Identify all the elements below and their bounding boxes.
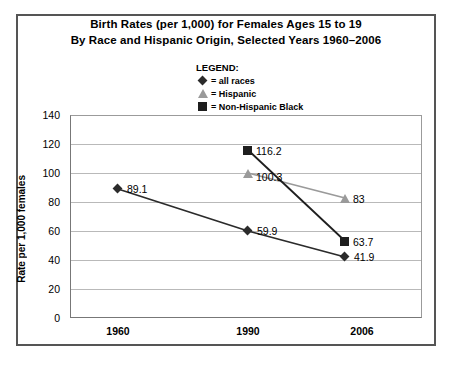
- label-hispanic-1990: 100.3: [256, 172, 282, 183]
- label-all-races-2006: 41.9: [354, 252, 374, 263]
- title-line-1: Birth Rates (per 1,000) for Females Ages…: [16, 16, 436, 32]
- title-line-2: By Race and Hispanic Origin, Selected Ye…: [16, 32, 436, 48]
- label-non-hispanic-black-1990: 116.2: [256, 146, 282, 157]
- point-hispanic-1990: [243, 169, 253, 178]
- y-tick-140: 140: [16, 110, 60, 120]
- chart-legend: LEGEND: = all races = Hispanic = Non-His…: [196, 62, 366, 113]
- point-non-hispanic-black-2006: [340, 237, 349, 246]
- x-tick-2006: 2006: [350, 325, 373, 337]
- legend-label-hispanic: = Hispanic: [211, 89, 256, 99]
- y-tick-120: 120: [16, 139, 60, 149]
- y-tick-100: 100: [16, 168, 60, 178]
- x-tick-1960: 1960: [106, 325, 129, 337]
- diamond-marker-icon: [196, 77, 209, 84]
- gridline-20: [71, 289, 421, 290]
- y-tick-40: 40: [16, 255, 60, 265]
- y-tick-0: 0: [16, 313, 60, 323]
- y-tick-80: 80: [16, 197, 60, 207]
- point-hispanic-2006: [340, 194, 350, 203]
- chart-title: Birth Rates (per 1,000) for Females Ages…: [16, 16, 436, 48]
- x-tick-1990: 1990: [236, 325, 259, 337]
- label-all-races-1990: 59.9: [257, 226, 277, 237]
- label-non-hispanic-black-2006: 63.7: [353, 237, 373, 248]
- legend-item-non-hispanic-black: = Non-Hispanic Black: [196, 100, 366, 113]
- gridline-80: [71, 202, 421, 203]
- legend-label-all-races: = all races: [211, 76, 255, 86]
- x-axis: 1960 1990 2006: [70, 318, 422, 346]
- legend-item-hispanic: = Hispanic: [196, 87, 366, 100]
- legend-item-all-races: = all races: [196, 74, 366, 87]
- point-non-hispanic-black-1990: [243, 146, 252, 155]
- gridline-120: [71, 144, 421, 145]
- label-hispanic-2006: 83: [353, 194, 365, 205]
- square-marker-icon: [196, 102, 209, 111]
- y-tick-60: 60: [16, 226, 60, 236]
- legend-heading: LEGEND:: [196, 62, 366, 74]
- triangle-marker-icon: [196, 89, 209, 98]
- legend-label-non-hispanic-black: = Non-Hispanic Black: [211, 102, 303, 112]
- y-tick-20: 20: [16, 284, 60, 294]
- label-all-races-1960: 89.1: [127, 184, 147, 195]
